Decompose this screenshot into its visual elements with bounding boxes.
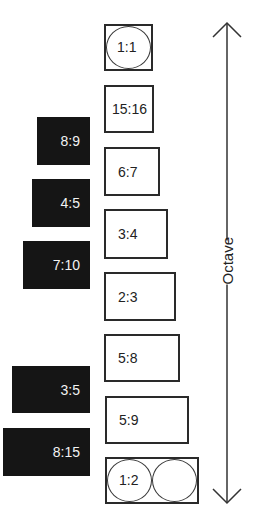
ratio-box-3-4: 3:4 (104, 209, 168, 259)
ratio-box-5-9: 5:9 (105, 396, 189, 444)
ratio-box-5-8: 5:8 (104, 334, 180, 382)
octave-label: Octave (217, 241, 238, 285)
ratio-box-3-5: 3:5 (12, 366, 90, 413)
ratio-box-2-3: 2:3 (104, 272, 176, 321)
ratio-box-7-10: 7:10 (23, 241, 90, 289)
ratio-box-1-1: 1:1 (104, 24, 153, 71)
ratio-box-8-15: 8:15 (3, 428, 90, 476)
ratio-box-6-7: 6:7 (104, 147, 160, 196)
ratio-box-15-16: 15:16 (104, 85, 154, 133)
ratio-box-8-9: 8:9 (37, 117, 90, 165)
ratio-box-4-5: 4:5 (32, 179, 90, 227)
circle-icon (152, 459, 197, 502)
ratio-box-1-2: 1:2 (105, 457, 199, 504)
